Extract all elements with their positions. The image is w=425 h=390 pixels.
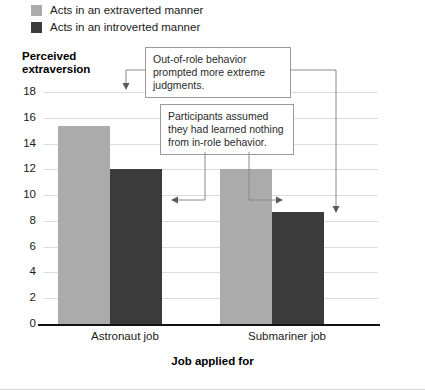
y-tick-label: 8 — [6, 214, 36, 226]
y-tick-label: 12 — [6, 162, 36, 174]
annotation-callout-out-of-role: Out-of-role behavior prompted more extre… — [145, 47, 291, 98]
y-tick-label: 2 — [6, 291, 36, 303]
x-category-submariner: Submariner job — [222, 330, 352, 342]
legend-label-introverted: Acts in an introverted manner — [50, 22, 200, 33]
y-tick-label: 6 — [6, 240, 36, 252]
legend-item-introverted: Acts in an introverted manner — [31, 20, 203, 35]
legend-label-extraverted: Acts in an extraverted manner — [50, 5, 203, 16]
legend-swatch-introverted — [31, 22, 42, 33]
y-axis-ticks: 024681012141618 — [2, 92, 36, 324]
y-tick-label: 4 — [6, 265, 36, 277]
y-tick-label: 16 — [6, 111, 36, 123]
annotation-callout-in-role: Participants assumed they had learned no… — [160, 104, 294, 155]
legend-swatch-extraverted — [31, 5, 42, 16]
bar-0-1 — [110, 169, 162, 324]
chart-legend: Acts in an extraverted manner Acts in an… — [31, 3, 203, 37]
y-tick-label: 18 — [6, 85, 36, 97]
y-tick-label: 14 — [6, 137, 36, 149]
x-category-astronaut: Astronaut job — [60, 330, 190, 342]
bar-0-0 — [58, 126, 110, 324]
bar-1-1 — [272, 212, 324, 324]
y-tick-label: 10 — [6, 188, 36, 200]
x-axis-label: Job applied for — [0, 355, 425, 367]
y-tick-label: 0 — [6, 317, 36, 329]
bar-1-0 — [220, 169, 272, 324]
y-axis-label: Perceivedextraversion — [22, 50, 90, 76]
legend-item-extraverted: Acts in an extraverted manner — [31, 3, 203, 18]
x-axis-line — [38, 324, 380, 326]
